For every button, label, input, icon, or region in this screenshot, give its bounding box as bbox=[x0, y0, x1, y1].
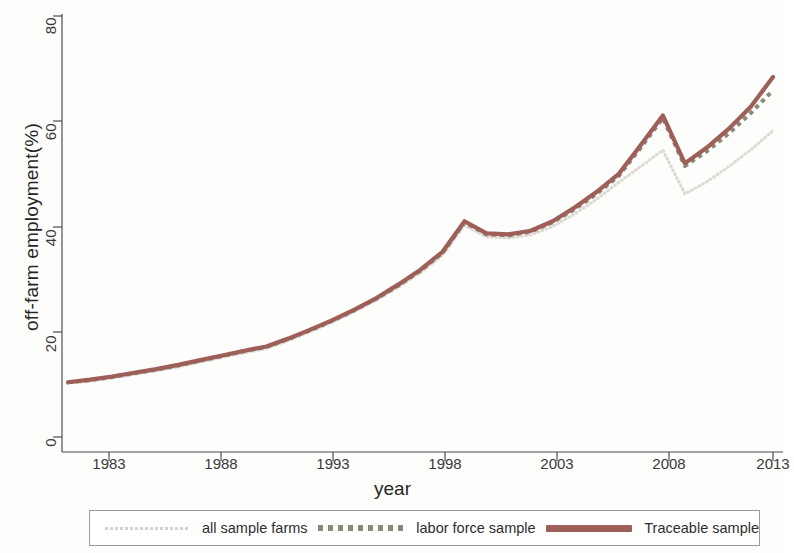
dashed-line-swatch-icon bbox=[318, 525, 404, 531]
legend-item-all-sample-farms: all sample farms bbox=[104, 520, 308, 536]
legend-label-traceable-sample: Traceable sample bbox=[644, 520, 759, 536]
dotted-line-swatch-icon bbox=[104, 525, 190, 531]
solid-line-swatch-icon bbox=[546, 525, 632, 532]
legend-label-all-sample-farms: all sample farms bbox=[202, 520, 308, 536]
y-tick-marks bbox=[53, 16, 62, 437]
series-line-traceable-sample bbox=[68, 77, 773, 382]
legend: all sample farms labor force sample Trac… bbox=[89, 510, 760, 546]
legend-item-traceable-sample: Traceable sample bbox=[546, 520, 759, 536]
x-tick-marks bbox=[109, 452, 773, 461]
legend-label-labor-force-sample: labor force sample bbox=[416, 520, 535, 536]
legend-item-labor-force-sample: labor force sample bbox=[318, 520, 535, 536]
series-line-labor-force-sample bbox=[68, 90, 773, 382]
series-line-all-sample-farms bbox=[68, 131, 773, 384]
